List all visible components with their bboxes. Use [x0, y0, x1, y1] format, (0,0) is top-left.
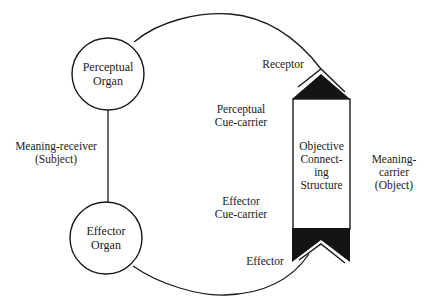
meaning-carrier-line3: (Object) — [362, 179, 426, 192]
objective-structure-line3: ing — [293, 166, 350, 179]
effector-cue-carrier-line1: Effector — [208, 195, 274, 208]
meaning-receiver-line2: (Subject) — [6, 153, 106, 166]
objective-structure-line4: Structure — [293, 179, 350, 192]
objective-structure-line2: Connect- — [293, 153, 350, 166]
meaning-carrier-line2: carrier — [362, 166, 426, 179]
effector-text: Effector — [246, 255, 283, 267]
effector-organ-label: Effector Organ — [70, 224, 142, 252]
meaning-carrier-line1: Meaning- — [362, 153, 426, 166]
perceptual-cue-carrier-label: Perceptual Cue-carrier — [208, 103, 274, 129]
effector-organ-label-line2: Organ — [70, 238, 142, 252]
receptor-label: Receptor — [258, 58, 308, 71]
effector-organ-label-line1: Effector — [70, 224, 142, 238]
perceptual-organ-label-line2: Organ — [72, 74, 144, 88]
perceptual-cue-carrier-line1: Perceptual — [208, 103, 274, 116]
meaning-receiver-label: Meaning-receiver (Subject) — [6, 140, 106, 166]
perceptual-cue-carrier-line2: Cue-carrier — [208, 116, 274, 129]
receptor-text: Receptor — [262, 58, 304, 70]
objective-structure-line1: Objective — [293, 140, 350, 153]
receptor-triangle — [292, 74, 350, 99]
effector-cue-carrier-label: Effector Cue-carrier — [208, 195, 274, 221]
meaning-carrier-label: Meaning- carrier (Object) — [362, 153, 426, 192]
perceptual-organ-label-line1: Perceptual — [72, 60, 144, 74]
meaning-receiver-line1: Meaning-receiver — [6, 140, 106, 153]
perceptual-organ-label: Perceptual Organ — [72, 60, 144, 88]
effector-label: Effector — [238, 255, 292, 268]
objective-structure-label: Objective Connect- ing Structure — [293, 140, 350, 192]
effector-cue-carrier-line2: Cue-carrier — [208, 208, 274, 221]
